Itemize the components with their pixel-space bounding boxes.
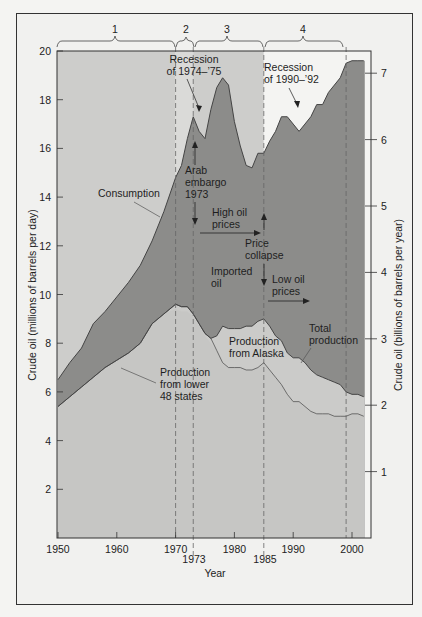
x-axis-title: Year (204, 567, 226, 579)
svg-text:Recession: Recession (169, 53, 218, 65)
x-tick-1990: 1990 (282, 543, 306, 555)
svg-text:from lower: from lower (160, 378, 210, 390)
y-right-tick-5: 5 (381, 200, 387, 212)
y-tick-10: 10 (39, 289, 51, 301)
svg-text:of 1990–’92: of 1990–’92 (264, 73, 319, 85)
svg-text:prices: prices (272, 285, 300, 297)
y-tick-4: 4 (45, 435, 51, 447)
y-axis-title-right: Crude oil (billions of barrels per year) (392, 219, 404, 391)
svg-text:Production: Production (160, 366, 210, 378)
y-tick-12: 12 (39, 240, 51, 252)
svg-text:embargo: embargo (185, 176, 227, 188)
svg-text:Total: Total (309, 322, 331, 334)
era-braces (57, 36, 343, 47)
svg-text:High oil: High oil (212, 206, 247, 218)
svg-text:Arab: Arab (185, 164, 207, 176)
svg-text:Recession: Recession (264, 61, 313, 73)
x-tick-1980: 1980 (223, 543, 247, 555)
x-tick-2000: 2000 (340, 543, 364, 555)
svg-text:of 1974–’75: of 1974–’75 (167, 65, 222, 77)
y-right-tick-3: 3 (381, 333, 387, 345)
era-label-4: 4 (300, 23, 306, 35)
y-tick-8: 8 (45, 337, 51, 349)
era-label-1: 1 (112, 23, 118, 35)
svg-text:48 states: 48 states (160, 390, 203, 402)
era-label-3: 3 (224, 23, 230, 35)
x-tick-1960: 1960 (105, 543, 129, 555)
svg-text:1973: 1973 (185, 188, 209, 200)
svg-text:Low oil: Low oil (272, 273, 305, 285)
svg-text:production: production (309, 334, 358, 346)
annotation-alaska: Production from Alaska (229, 335, 284, 359)
y-right-tick-6: 6 (381, 134, 387, 146)
svg-text:Imported: Imported (211, 265, 253, 277)
svg-text:Price: Price (245, 237, 269, 249)
y-tick-2: 2 (45, 483, 51, 495)
y-axis-title-left: Crude oil (millions of barrels per day) (26, 209, 38, 381)
y-right-tick-2: 2 (381, 399, 387, 411)
svg-text:Consumption: Consumption (98, 187, 160, 199)
svg-text:oil: oil (211, 277, 222, 289)
svg-text:prices: prices (212, 218, 240, 230)
y-tick-6: 6 (45, 386, 51, 398)
y-tick-20: 20 (39, 45, 51, 57)
svg-text:Production: Production (229, 335, 279, 347)
y-right-tick-7: 7 (381, 67, 387, 79)
x-tick-1950: 1950 (46, 543, 70, 555)
x-tick-1973: 1973 (182, 553, 206, 565)
y-tick-16: 16 (39, 142, 51, 154)
svg-text:from Alaska: from Alaska (229, 347, 284, 359)
x-tick-1985: 1985 (253, 553, 277, 565)
era-label-2: 2 (183, 23, 189, 35)
y-tick-14: 14 (39, 191, 51, 203)
y-right-tick-1: 1 (381, 466, 387, 478)
y-tick-18: 18 (39, 94, 51, 106)
svg-text:collapse: collapse (245, 249, 284, 261)
y-right-tick-4: 4 (381, 266, 387, 278)
oil-chart: 2468101214161820123456719501960197019801… (0, 0, 422, 617)
